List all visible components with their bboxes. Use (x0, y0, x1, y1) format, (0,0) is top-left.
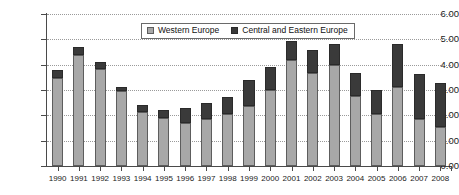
bar-segment[interactable] (52, 78, 63, 166)
legend-swatch-western-europe (147, 27, 154, 34)
x-axis-tick-mark (228, 166, 229, 171)
bar-segment[interactable] (414, 74, 425, 119)
bar-segment[interactable] (137, 105, 148, 112)
bar-segment[interactable] (73, 47, 84, 55)
bar-segment[interactable] (350, 96, 361, 166)
bar-2006[interactable] (392, 14, 403, 166)
bar-1990[interactable] (52, 14, 63, 166)
y-axis-tick-mark (41, 166, 46, 167)
bar-segment[interactable] (371, 90, 382, 114)
chart-legend: Western Europe Central and Eastern Europ… (141, 23, 355, 39)
bar-segment[interactable] (329, 65, 340, 166)
bar-segment[interactable] (95, 62, 106, 70)
bar-2005[interactable] (371, 14, 382, 166)
bar-segment[interactable] (95, 69, 106, 166)
bar-segment[interactable] (286, 41, 297, 60)
bar-segment[interactable] (180, 123, 191, 166)
bar-segment[interactable] (52, 70, 63, 77)
bar-segment[interactable] (307, 50, 318, 73)
x-axis-tick-mark (270, 166, 271, 171)
bar-segment[interactable] (307, 73, 318, 166)
bar-segment[interactable] (286, 60, 297, 166)
x-axis-tick-mark (313, 166, 314, 171)
x-axis-tick-mark (206, 166, 207, 171)
x-axis-tick-mark (440, 166, 441, 171)
x-axis-tick-mark (398, 166, 399, 171)
x-axis-tick-mark (100, 166, 101, 171)
x-axis-tick-mark (164, 166, 165, 171)
bar-segment[interactable] (116, 91, 127, 166)
y-axis-tick-mark (41, 14, 46, 15)
bar-segment[interactable] (73, 55, 84, 166)
x-axis-tick-mark (334, 166, 335, 171)
x-axis-tick-mark (79, 166, 80, 171)
bar-2008[interactable] (435, 14, 446, 166)
y-axis-tick-mark (41, 65, 46, 66)
bar-segment[interactable] (116, 87, 127, 92)
x-axis-tick-label: 2008 (425, 175, 455, 183)
legend-item-western-europe: Western Europe (147, 26, 219, 35)
bar-segment[interactable] (158, 118, 169, 166)
bar-segment[interactable] (158, 110, 169, 119)
y-axis-tick-mark (41, 115, 46, 116)
y-axis-tick-mark (41, 90, 46, 91)
x-axis-tick-mark (451, 166, 452, 171)
bar-segment[interactable] (414, 119, 425, 166)
bar-segment[interactable] (392, 44, 403, 87)
x-axis-tick-mark (121, 166, 122, 171)
bar-segment[interactable] (392, 87, 403, 166)
bar-2007[interactable] (414, 14, 425, 166)
bar-segment[interactable] (350, 73, 361, 96)
bar-segment[interactable] (201, 103, 212, 120)
bar-segment[interactable] (371, 114, 382, 166)
legend-swatch-central-eastern-europe (231, 27, 238, 34)
y-axis-tick-mark (41, 39, 46, 40)
bar-segment[interactable] (243, 106, 254, 166)
x-axis-tick-mark (377, 166, 378, 171)
x-axis-tick-mark (419, 166, 420, 171)
x-axis-tick-mark (292, 166, 293, 171)
x-axis-tick-mark (143, 166, 144, 171)
bar-1992[interactable] (95, 14, 106, 166)
bar-segment[interactable] (201, 119, 212, 166)
bar-segment[interactable] (180, 108, 191, 123)
x-axis-tick-mark (355, 166, 356, 171)
bar-1991[interactable] (73, 14, 84, 166)
bar-segment[interactable] (329, 44, 340, 65)
bar-segment[interactable] (435, 127, 446, 166)
legend-label-western-europe: Western Europe (158, 26, 219, 35)
bar-segment[interactable] (435, 83, 446, 127)
x-axis-tick-mark (185, 166, 186, 171)
bar-segment[interactable] (222, 97, 233, 114)
bar-1993[interactable] (116, 14, 127, 166)
x-axis-tick-mark (249, 166, 250, 171)
bar-segment[interactable] (243, 80, 254, 106)
legend-item-central-eastern-europe: Central and Eastern Europe (231, 26, 347, 35)
legend-label-central-eastern-europe: Central and Eastern Europe (242, 26, 347, 35)
bar-segment[interactable] (265, 67, 276, 90)
stacked-bar-chart: 0.001.002.003.004.005.006.00 19901991199… (0, 0, 459, 195)
bar-segment[interactable] (222, 114, 233, 166)
y-axis-tick-mark (41, 141, 46, 142)
x-axis-tick-mark (58, 166, 59, 171)
bar-segment[interactable] (265, 90, 276, 166)
bar-segment[interactable] (137, 112, 148, 166)
